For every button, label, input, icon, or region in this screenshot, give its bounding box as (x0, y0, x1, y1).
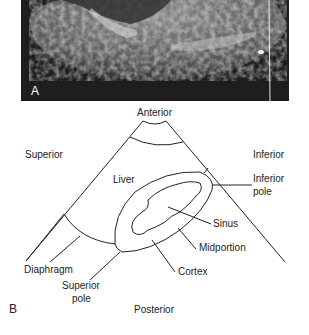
label-superior-direction: Superior (25, 149, 63, 161)
panel-b-letter: B (9, 303, 17, 315)
label-diaphragm: Diaphragm (24, 264, 73, 276)
label-inferior-direction: Inferior (253, 149, 284, 161)
label-sinus: Sinus (213, 218, 238, 230)
label-superior-pole-line2: pole (72, 293, 91, 305)
label-inferior-pole-line1: Inferior (253, 173, 284, 185)
transducer-arc (143, 121, 166, 124)
renal-sinus (132, 182, 202, 235)
label-liver: Liver (113, 174, 135, 186)
kidney-schematic (0, 0, 309, 335)
label-inferior-pole-line2: pole (253, 186, 272, 198)
diaphragm-curve (64, 214, 115, 244)
label-midportion: Midportion (199, 242, 246, 254)
near-field-arc (130, 137, 183, 145)
label-anterior: Anterior (137, 107, 172, 119)
label-superior-pole-line1: Superior (62, 280, 100, 292)
label-posterior: Posterior (134, 304, 174, 316)
label-cortex: Cortex (178, 266, 207, 278)
